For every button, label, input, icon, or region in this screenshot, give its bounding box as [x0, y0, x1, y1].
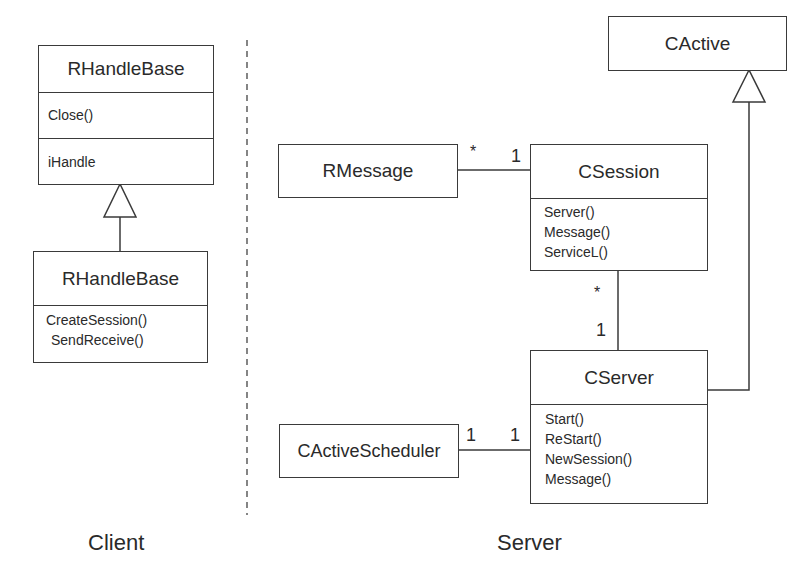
multiplicity: * [594, 284, 600, 302]
operations-section: CreateSession() SendReceive() [34, 305, 207, 362]
class-csession: CSession Server() Message() ServiceL() [530, 144, 708, 271]
class-cactivescheduler: CActiveScheduler [279, 424, 459, 478]
multiplicity: 1 [511, 146, 521, 167]
operation: ServiceL() [544, 242, 707, 262]
operation: CreateSession() [46, 310, 207, 330]
class-name: RMessage [323, 160, 414, 182]
client-label: Client [88, 530, 144, 556]
operation: Close() [48, 105, 213, 125]
operation: Start() [545, 409, 707, 429]
multiplicity: 1 [596, 320, 606, 341]
operation: NewSession() [545, 449, 707, 469]
operation: SendReceive() [46, 330, 207, 350]
multiplicity: * [470, 143, 476, 161]
class-name: CSession [531, 145, 707, 198]
attributes-section: iHandle [39, 138, 213, 183]
operation: Server() [544, 202, 707, 222]
generalization-cserver-cactive [707, 102, 749, 390]
operation: ReStart() [545, 429, 707, 449]
class-rhandlebase-base: RHandleBase Close() iHandle [38, 45, 214, 185]
multiplicity: 1 [466, 425, 476, 446]
generalization-arrow-icon [733, 70, 765, 102]
class-rmessage: RMessage [278, 144, 458, 198]
class-name: RHandleBase [39, 46, 213, 92]
class-name: RHandleBase [34, 252, 207, 305]
operations-section: Server() Message() ServiceL() [531, 198, 707, 270]
operations-section: Start() ReStart() NewSession() Message() [531, 404, 707, 502]
operation: Message() [545, 469, 707, 489]
generalization-arrow-icon [104, 184, 136, 217]
operation: Message() [544, 222, 707, 242]
multiplicity: 1 [510, 425, 520, 446]
attribute: iHandle [48, 152, 213, 172]
class-cserver: CServer Start() ReStart() NewSession() M… [530, 350, 708, 504]
server-label: Server [497, 530, 562, 556]
operations-section: Close() [39, 92, 213, 138]
class-name: CActive [665, 33, 730, 55]
class-cactive: CActive [608, 16, 787, 71]
class-name: CServer [531, 351, 707, 404]
class-name: CActiveScheduler [297, 441, 440, 462]
class-rhandlebase-client: RHandleBase CreateSession() SendReceive(… [33, 251, 208, 363]
